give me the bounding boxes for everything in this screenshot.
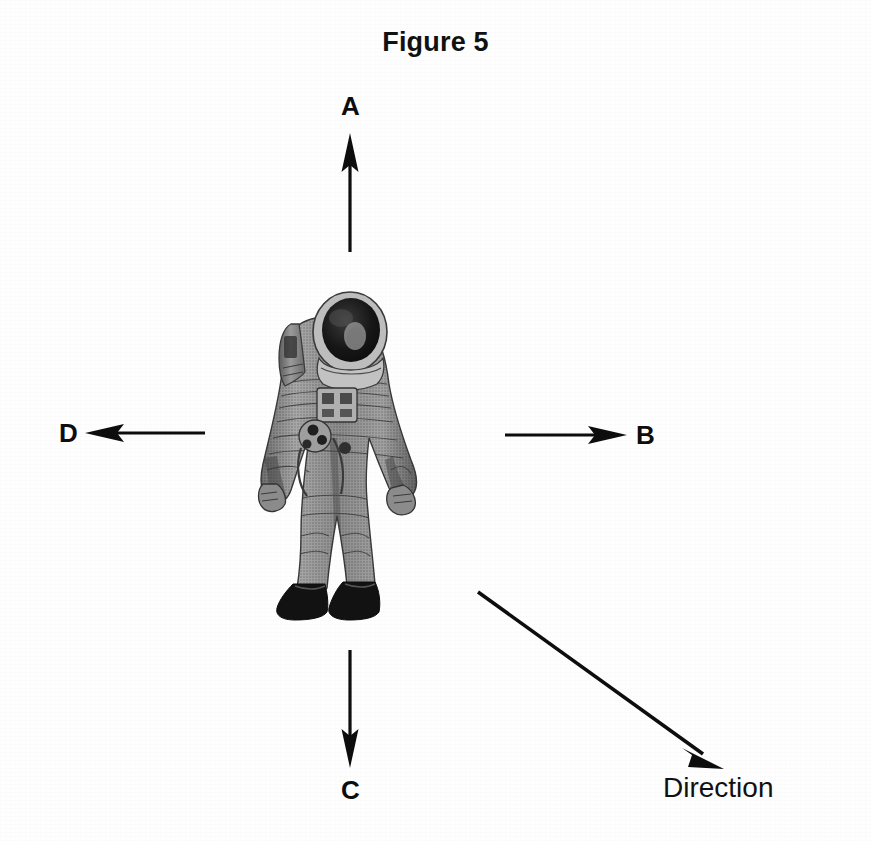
arrow-label-b: B — [636, 422, 655, 448]
arrow-label-c: C — [341, 777, 360, 803]
figure-canvas: Figure 5 A B C D Direction — [0, 0, 871, 841]
direction-arrows-group — [0, 0, 871, 841]
arrow-c — [342, 650, 359, 768]
arrow-label-d: D — [59, 420, 78, 446]
astronaut-icon — [243, 288, 421, 624]
astronaut-chest-module — [317, 388, 357, 422]
arrow-label-direction: Direction — [663, 774, 773, 802]
arrow-a — [342, 133, 359, 252]
arrow-label-a: A — [341, 93, 360, 119]
arrow-d — [85, 424, 205, 442]
astronaut-boots — [277, 582, 380, 620]
arrow-b — [505, 426, 627, 444]
astronaut-helmet — [313, 292, 421, 398]
arrow-direction — [478, 592, 724, 769]
